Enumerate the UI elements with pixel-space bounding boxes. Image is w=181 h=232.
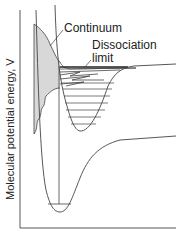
continuum-label: Continuum [64,21,122,35]
y-axis-label: Molecular potential energy, V [4,58,16,200]
limit-label: limit [92,51,114,65]
potential-energy-diagram: Continuum Dissociation limit Molecular p… [0,0,181,232]
dissociation-label: Dissociation [92,38,157,52]
upper-vibrational-levels [62,83,114,124]
